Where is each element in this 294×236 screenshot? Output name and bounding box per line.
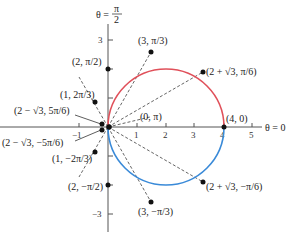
label-2sqrt3-pi6: (2 + √3, π/6) xyxy=(206,66,257,78)
y-tick-neg3: −3 xyxy=(92,209,102,219)
x-tick-2: 2 xyxy=(163,130,168,140)
polar-diagram: 1 2 3 4 5 3 −3 −1 θ = π 2 θ = 0 xyxy=(0,0,294,236)
label-2-pi2: (2, π/2) xyxy=(72,56,102,68)
label-2sqrt3-negpi6: (2 + √3, −π/6) xyxy=(206,181,262,193)
label-2msqrt3-5pi6: (2 − √3, 5π/6) xyxy=(14,105,70,117)
label-4-0: (4, 0) xyxy=(226,113,248,125)
label-2-negpi2: (2, −π/2) xyxy=(68,181,103,193)
label-2msqrt3-neg5pi6: (2 − √3, −5π/6) xyxy=(2,137,63,149)
label-1-neg2pi3: (1, −2π/3) xyxy=(52,153,92,165)
vertical-axis-den: 2 xyxy=(114,14,119,25)
y-tick-3: 3 xyxy=(98,35,103,45)
x-tick-5: 5 xyxy=(249,130,254,140)
label-3-negpi3: (3, −π/3) xyxy=(138,206,173,218)
label-3-pi3: (3, π/3) xyxy=(138,35,168,47)
label-1-2pi3: (1, 2π/3) xyxy=(60,89,95,101)
vertical-axis-label: θ = xyxy=(96,9,109,20)
x-tick-1: 1 xyxy=(134,130,139,140)
vertical-axis-num: π xyxy=(114,3,119,14)
x-tick-3: 3 xyxy=(191,130,196,140)
horizontal-axis-label: θ = 0 xyxy=(265,122,285,133)
label-0-pi: (0, π) xyxy=(140,111,162,123)
upper-arc xyxy=(108,69,224,127)
